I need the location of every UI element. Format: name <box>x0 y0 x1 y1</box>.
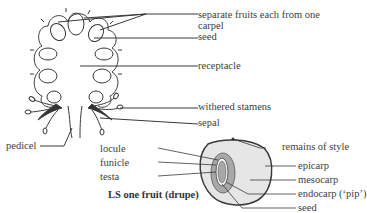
drupelet <box>39 69 57 83</box>
label-locule: locule <box>100 143 126 154</box>
drupelet <box>39 48 57 60</box>
label-funicle: funicle <box>100 157 129 168</box>
drupelet <box>68 13 84 35</box>
label-mesocarp: mesocarp <box>298 174 338 185</box>
label-epicarp: epicarp <box>298 160 329 171</box>
label-pedicel: pedicel <box>6 140 36 151</box>
label-seed: seed <box>198 31 217 42</box>
drupelet <box>95 48 113 60</box>
drupelet <box>93 69 111 83</box>
label-drupe-seed: seed <box>298 202 317 213</box>
label-separate-fruits-cont: carpel <box>198 20 224 31</box>
diagram-caption: LS one fruit (drupe) <box>108 189 199 200</box>
leader-lines-whole <box>40 14 198 146</box>
drupelet <box>47 21 68 44</box>
seed-inner <box>218 161 226 183</box>
label-receptacle: receptacle <box>198 60 241 71</box>
drupelet <box>89 91 103 103</box>
label-testa: testa <box>100 171 119 182</box>
fruit-outline-left <box>34 26 56 107</box>
withered-stamens <box>25 92 123 135</box>
label-separate-fruits: separate fruits each from one <box>198 9 320 20</box>
drupelet <box>47 91 61 103</box>
label-remains-of-style: remains of style <box>282 141 349 152</box>
label-sepal: sepal <box>198 117 220 128</box>
aggregate-fruit <box>30 8 122 107</box>
drupelet <box>85 22 106 45</box>
label-endocarp: endocarp (‘pip’) <box>298 188 367 199</box>
label-withered-stamens: withered stamens <box>198 101 271 112</box>
